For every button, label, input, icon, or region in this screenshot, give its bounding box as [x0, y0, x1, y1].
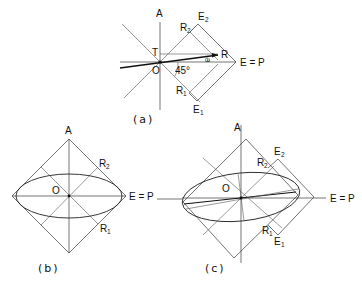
a-label-E1-sub: 1	[200, 109, 204, 116]
a-label-EP: E = P	[240, 57, 265, 68]
a-outer-rectangle	[189, 24, 236, 101]
a-inner-line-bottom	[189, 64, 218, 93]
c-label-A: A	[234, 122, 241, 133]
a-label-omega: ω	[205, 56, 210, 63]
c-label-E1: E	[274, 236, 281, 247]
b-origin-dot	[68, 195, 71, 198]
c-label-EP: E = P	[330, 193, 355, 204]
a-OR-vector	[120, 55, 218, 68]
c-caption: (c)	[205, 262, 226, 275]
c-label-E2: E	[274, 146, 281, 157]
a-label-R: R	[221, 49, 228, 60]
b-label-R1-sub: 1	[107, 228, 111, 235]
panel-a: A T O R R 2 E 2 R 1 E 1 E = P 45° ω (a)	[120, 8, 265, 126]
a-label-45: 45°	[175, 65, 190, 76]
polarization-diagram: A T O R R 2 E 2 R 1 E 1 E = P 45° ω (a) …	[0, 0, 362, 286]
c-label-E1-sub: 1	[281, 241, 285, 248]
c-label-R1-sub: 1	[269, 230, 273, 237]
a-label-R1-sub: 1	[183, 90, 187, 97]
b-label-R2-sub: 2	[106, 163, 110, 170]
a-label-E2-sub: 2	[205, 16, 209, 23]
a-label-R2-sub: 2	[187, 27, 191, 34]
panel-c: A O R 2 E 2 R 1 E 1 E = P (c)	[180, 122, 355, 275]
c-label-R2-sub: 2	[264, 162, 268, 169]
a-label-T: T	[152, 47, 158, 58]
c-diagonal-R1	[203, 158, 282, 228]
c-label-O: O	[222, 183, 230, 194]
a-caption: (a)	[133, 113, 154, 126]
c-label-E2-sub: 2	[281, 151, 285, 158]
b-label-A: A	[65, 125, 72, 136]
a-label-O: O	[152, 65, 160, 76]
b-label-O: O	[52, 185, 60, 196]
a-origin-dot	[158, 60, 161, 63]
c-origin-dot	[240, 197, 243, 200]
b-label-EP: E = P	[129, 191, 154, 202]
a-label-E1: E	[193, 104, 200, 115]
b-caption: (b)	[38, 262, 60, 275]
a-label-E2: E	[198, 11, 205, 22]
panel-b: A O R 2 R 1 E = P (b)	[12, 125, 154, 275]
a-label-A: A	[156, 8, 163, 19]
